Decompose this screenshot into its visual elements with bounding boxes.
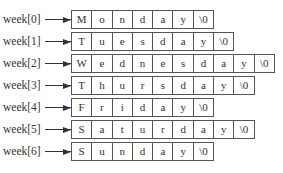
char-array: Wednesday\0	[71, 54, 275, 73]
char-cell: a	[194, 121, 214, 138]
char-cell: y	[173, 99, 193, 116]
pointer-row: week[3]Thursday\0	[0, 76, 283, 95]
char-cell: s	[133, 33, 153, 50]
arrow-right-icon	[45, 107, 71, 108]
pointer-row: week[6]Sunday\0	[0, 142, 283, 161]
char-cell: s	[153, 77, 173, 94]
char-cell: a	[214, 55, 234, 72]
char-cell: d	[133, 11, 153, 28]
pointer-label: week[1]	[3, 33, 41, 50]
char-cell: h	[92, 77, 112, 94]
char-cell: r	[133, 77, 153, 94]
char-cell: u	[133, 121, 153, 138]
char-cell: u	[92, 143, 112, 160]
char-cell: d	[173, 77, 193, 94]
char-cell: n	[133, 55, 153, 72]
arrow-right-icon	[45, 41, 71, 42]
pointer-row: week[0]Monday\0	[0, 10, 283, 29]
pointer-row: week[5]Saturday\0	[0, 120, 283, 139]
char-cell: s	[173, 55, 193, 72]
char-cell: i	[113, 99, 133, 116]
char-array: Monday\0	[71, 10, 214, 29]
char-cell: n	[113, 11, 133, 28]
string-array-diagram: week[0]Monday\0week[1]Tuesday\0week[2]We…	[0, 0, 283, 173]
arrow-right-icon	[45, 19, 71, 20]
pointer-row: week[2]Wednesday\0	[0, 54, 283, 73]
char-array: Tuesday\0	[71, 32, 234, 51]
char-cell: a	[92, 121, 112, 138]
char-array: Saturday\0	[71, 120, 255, 139]
null-terminator-cell: \0	[255, 55, 275, 72]
char-cell: d	[153, 33, 173, 50]
char-cell: e	[92, 55, 112, 72]
char-cell: y	[214, 121, 234, 138]
char-cell: y	[173, 11, 193, 28]
char-cell: y	[214, 77, 234, 94]
char-cell: S	[72, 143, 92, 160]
pointer-row: week[4]Friday\0	[0, 98, 283, 117]
char-cell: F	[72, 99, 92, 116]
pointer-label: week[4]	[3, 99, 41, 116]
null-terminator-cell: \0	[194, 11, 214, 28]
null-terminator-cell: \0	[214, 33, 234, 50]
pointer-label: week[5]	[3, 121, 41, 138]
pointer-row: week[1]Tuesday\0	[0, 32, 283, 51]
char-cell: T	[72, 33, 92, 50]
null-terminator-cell: \0	[234, 77, 254, 94]
char-array: Friday\0	[71, 98, 214, 117]
pointer-label: week[2]	[3, 55, 41, 72]
char-cell: o	[92, 11, 112, 28]
pointer-label: week[3]	[3, 77, 41, 94]
char-cell: a	[194, 77, 214, 94]
char-cell: T	[72, 77, 92, 94]
pointer-label: week[0]	[3, 11, 41, 28]
null-terminator-cell: \0	[194, 99, 214, 116]
char-cell: e	[113, 33, 133, 50]
char-cell: r	[92, 99, 112, 116]
null-terminator-cell: \0	[234, 121, 254, 138]
char-cell: d	[194, 55, 214, 72]
arrow-right-icon	[45, 129, 71, 130]
char-cell: a	[153, 99, 173, 116]
char-cell: t	[113, 121, 133, 138]
char-array: Thursday\0	[71, 76, 255, 95]
char-cell: a	[153, 143, 173, 160]
pointer-label: week[6]	[3, 143, 41, 160]
char-cell: y	[194, 33, 214, 50]
char-cell: W	[72, 55, 92, 72]
char-cell: d	[173, 121, 193, 138]
char-cell: d	[113, 55, 133, 72]
char-cell: y	[234, 55, 254, 72]
char-array: Sunday\0	[71, 142, 214, 161]
char-cell: n	[113, 143, 133, 160]
char-cell: e	[153, 55, 173, 72]
char-cell: S	[72, 121, 92, 138]
char-cell: a	[173, 33, 193, 50]
char-cell: u	[113, 77, 133, 94]
char-cell: M	[72, 11, 92, 28]
arrow-right-icon	[45, 63, 71, 64]
char-cell: d	[133, 99, 153, 116]
arrow-right-icon	[45, 85, 71, 86]
char-cell: a	[153, 11, 173, 28]
char-cell: r	[153, 121, 173, 138]
arrow-right-icon	[45, 151, 71, 152]
char-cell: u	[92, 33, 112, 50]
char-cell: y	[173, 143, 193, 160]
null-terminator-cell: \0	[194, 143, 214, 160]
char-cell: d	[133, 143, 153, 160]
